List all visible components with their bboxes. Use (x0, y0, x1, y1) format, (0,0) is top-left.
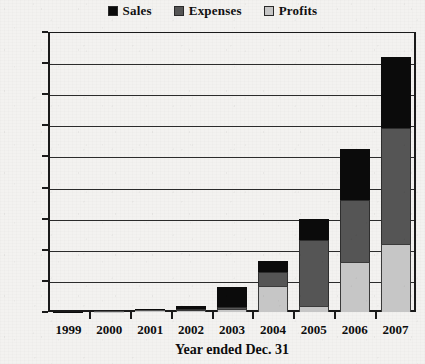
bar-segment-sales[interactable] (258, 261, 288, 272)
bar-series-layer (48, 32, 416, 312)
legend-item-profits[interactable]: Profits (264, 3, 318, 19)
bar-segment-profits[interactable] (381, 244, 411, 312)
bar-group-2007 (375, 32, 416, 312)
stacked-bar[interactable] (258, 261, 288, 312)
legend-item-expenses[interactable]: Expenses (174, 3, 242, 19)
bar-segment-profits[interactable] (176, 310, 206, 312)
legend-label: Sales (123, 3, 152, 19)
legend-label: Expenses (189, 3, 242, 19)
bar-group-2005 (293, 32, 334, 312)
stacked-bar[interactable] (94, 311, 124, 312)
bar-segment-expenses[interactable] (381, 128, 411, 243)
bar-segment-expenses[interactable] (299, 240, 329, 305)
chart-legend: SalesExpensesProfits (0, 2, 425, 20)
x-axis-title: Year ended Dec. 31 (48, 342, 416, 358)
bar-segment-profits[interactable] (299, 306, 329, 312)
bar-segment-expenses[interactable] (340, 200, 370, 262)
x-axis-tick-mark (171, 312, 173, 319)
legend-item-sales[interactable]: Sales (108, 3, 152, 19)
bar-group-2001 (130, 32, 171, 312)
stacked-bar[interactable] (135, 309, 165, 312)
bar-segment-sales[interactable] (340, 149, 370, 200)
x-axis-tick-mark (293, 312, 295, 319)
x-axis-tick-mark (252, 312, 254, 319)
stacked-bar[interactable] (217, 287, 247, 312)
legend-swatch-expenses-icon (174, 6, 184, 16)
bar-segment-sales[interactable] (299, 219, 329, 241)
x-axis-tick-label: 2007 (370, 322, 422, 338)
chart-figure: SalesExpensesProfits $0$2$4$6$8$10$12$14… (0, 0, 425, 364)
bar-segment-expenses[interactable] (258, 272, 288, 286)
bar-segment-profits[interactable] (217, 309, 247, 312)
x-axis-tick-mark (212, 312, 214, 319)
legend-swatch-sales-icon (108, 6, 118, 16)
bar-segment-profits[interactable] (135, 311, 165, 312)
bar-group-2002 (171, 32, 212, 312)
stacked-bar[interactable] (381, 57, 411, 312)
bar-group-2000 (89, 32, 130, 312)
x-axis-tick-mark (334, 312, 336, 319)
x-axis-tick-mark (89, 312, 91, 319)
x-axis-tick-mark (130, 312, 132, 319)
bar-segment-sales[interactable] (217, 287, 247, 307)
legend-label: Profits (279, 3, 318, 19)
x-axis-tick-mark (375, 312, 377, 319)
stacked-bar[interactable] (299, 219, 329, 312)
bar-group-2004 (252, 32, 293, 312)
bar-segment-profits[interactable] (340, 262, 370, 312)
bar-segment-sales[interactable] (381, 57, 411, 129)
legend-swatch-profits-icon (264, 6, 274, 16)
bar-group-1999 (48, 32, 89, 312)
bar-group-2006 (334, 32, 375, 312)
bar-group-2003 (212, 32, 253, 312)
stacked-bar[interactable] (340, 149, 370, 312)
bar-segment-profits[interactable] (258, 286, 288, 312)
stacked-bar[interactable] (176, 306, 206, 312)
